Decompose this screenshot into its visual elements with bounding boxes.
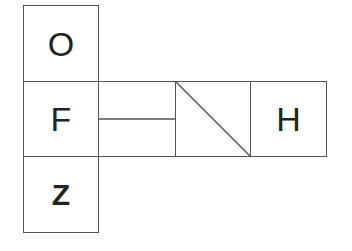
diagonal-line: [176, 82, 250, 156]
face-patterns: [0, 0, 352, 251]
